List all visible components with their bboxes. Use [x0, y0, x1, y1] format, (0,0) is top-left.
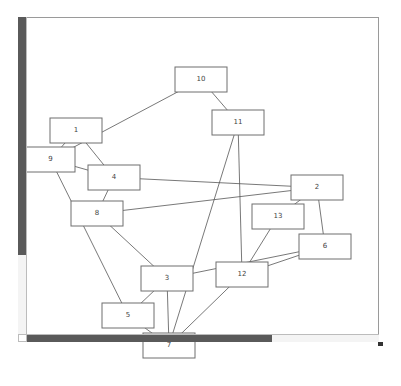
node-label: 2	[315, 183, 319, 191]
graph-node-2[interactable]: 2	[291, 175, 343, 200]
node-label: 13	[274, 212, 283, 220]
resize-grip-icon[interactable]	[378, 342, 383, 346]
horizontal-scroll-thumb[interactable]	[27, 335, 272, 342]
edge-11-12	[238, 123, 242, 275]
graph-node-5[interactable]: 5	[102, 303, 154, 328]
vertical-scrollbar[interactable]	[18, 17, 27, 334]
graph-node-1[interactable]: 1	[50, 118, 102, 143]
node-label: 1	[74, 126, 78, 134]
graph-node-12[interactable]: 12	[216, 262, 268, 287]
graph-node-9[interactable]: 9	[26, 147, 75, 172]
node-label: 10	[197, 75, 206, 83]
graph-node-8[interactable]: 8	[71, 201, 123, 226]
graph-view: 19101148213631257	[0, 0, 401, 386]
node-label: 8	[95, 209, 99, 217]
node-label: 3	[165, 274, 169, 282]
node-label: 12	[238, 270, 247, 278]
horizontal-scrollbar[interactable]	[27, 334, 379, 342]
node-label: 5	[126, 311, 130, 319]
scroll-corner	[18, 334, 27, 342]
node-label: 9	[48, 155, 52, 163]
edge-4-2	[114, 178, 317, 188]
graph-node-10[interactable]: 10	[175, 67, 227, 92]
node-label: 6	[323, 242, 328, 250]
graph-node-13[interactable]: 13	[252, 204, 304, 229]
vertical-scroll-thumb[interactable]	[18, 17, 26, 255]
node-label: 7	[167, 341, 171, 349]
graph-node-6[interactable]: 6	[299, 234, 351, 259]
graph-node-3[interactable]: 3	[141, 266, 193, 291]
node-layer: 19101148213631257	[26, 67, 351, 358]
graph-node-11[interactable]: 11	[212, 110, 264, 135]
node-label: 11	[234, 118, 243, 126]
graph-node-4[interactable]: 4	[88, 165, 140, 190]
node-label: 4	[112, 173, 117, 181]
